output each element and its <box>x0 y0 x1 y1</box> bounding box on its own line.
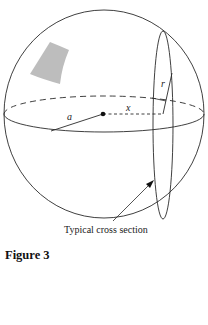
arrow-shaft <box>113 183 151 221</box>
label-x: x <box>125 102 131 113</box>
radius-a-line <box>51 114 103 131</box>
shaded-surface-patch <box>30 42 69 84</box>
label-a: a <box>67 111 72 122</box>
sphere-cross-section-figure: a x r Typical cross section Figure 3 <box>0 0 208 325</box>
equator-back-dashed <box>4 96 204 114</box>
label-r: r <box>161 78 165 89</box>
equator-front-solid <box>4 114 204 132</box>
caption-typical-cross-section: Typical cross section <box>64 224 148 235</box>
center-point <box>101 112 106 117</box>
figure-title: Figure 3 <box>5 248 50 262</box>
cross-section-ellipse <box>153 31 173 219</box>
